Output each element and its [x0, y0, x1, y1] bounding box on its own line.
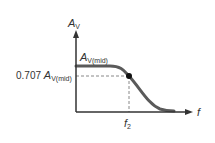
- frequency-response-diagram: AV AV(mid) 0.707 AV(mid) f f2: [0, 0, 215, 143]
- y-axis-label: AV: [67, 17, 80, 30]
- x-axis-arrow-icon: [185, 109, 193, 115]
- response-curve: [76, 66, 174, 111]
- cutoff-point: [126, 73, 132, 79]
- y-axis-arrow-icon: [73, 30, 79, 38]
- x-axis-label: f: [197, 106, 201, 118]
- midband-gain-label: AV(mid): [79, 51, 108, 65]
- cutoff-frequency-label: f2: [124, 117, 131, 130]
- cutoff-level-label: 0.707 AV(mid): [16, 69, 72, 83]
